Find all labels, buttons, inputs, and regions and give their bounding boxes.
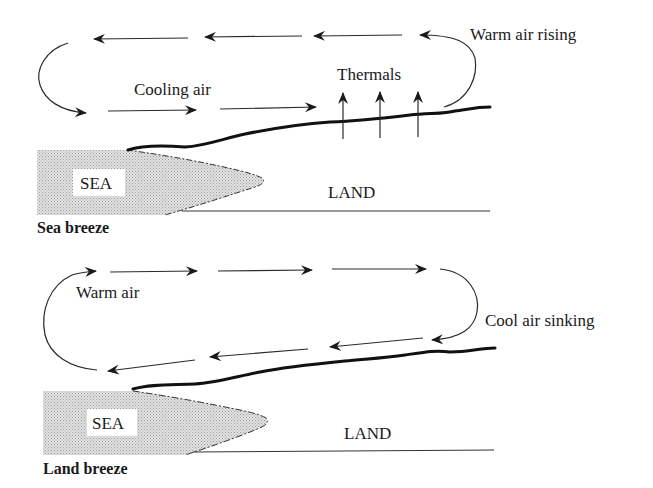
arrow-left-icon bbox=[205, 36, 302, 37]
lower-airflow-arrows bbox=[108, 107, 316, 111]
upper-airflow-arrows bbox=[94, 35, 402, 39]
upper-airflow-arrows bbox=[110, 269, 426, 272]
arrow-right-icon bbox=[218, 270, 312, 271]
coastline bbox=[133, 348, 495, 389]
land-label: LAND bbox=[344, 424, 391, 443]
land-ground-line bbox=[193, 450, 494, 452]
sea-label: SEA bbox=[80, 174, 113, 193]
arrow-right-icon bbox=[220, 107, 316, 109]
sea-area: SEA bbox=[37, 150, 264, 215]
cooling-air-label: Cooling air bbox=[134, 80, 211, 99]
sea-area: SEA bbox=[43, 391, 267, 455]
sea-label: SEA bbox=[92, 414, 125, 433]
arrow-left-icon bbox=[330, 338, 423, 347]
warm-air-label: Warm air bbox=[76, 283, 140, 302]
land-breeze-diagram: SEA LAND Warm air Cool air sinking Land … bbox=[43, 269, 595, 477]
arrow-left-icon bbox=[94, 38, 188, 39]
arrow-right-icon bbox=[108, 110, 196, 111]
sea-breeze-caption: Sea breeze bbox=[37, 219, 109, 236]
cool-air-sinking-label: Cool air sinking bbox=[485, 311, 595, 330]
arrow-right-icon bbox=[110, 271, 197, 272]
breeze-diagram: SEA LAND Warm air rising Cooling air bbox=[0, 0, 653, 488]
arrow-left-icon bbox=[108, 360, 195, 371]
lower-airflow-arrows bbox=[108, 338, 423, 371]
rising-curve-arrow-icon bbox=[420, 35, 476, 107]
coastline bbox=[128, 107, 490, 150]
warm-air-rising-label: Warm air rising bbox=[470, 25, 577, 44]
arrow-left-icon bbox=[210, 349, 308, 357]
sinking-curve-arrow-icon bbox=[432, 269, 478, 340]
land-breeze-caption: Land breeze bbox=[43, 460, 128, 477]
sea-breeze-diagram: SEA LAND Warm air rising Cooling air bbox=[37, 25, 577, 236]
descending-curve-arrow-icon bbox=[39, 43, 86, 113]
arrow-left-icon bbox=[314, 35, 402, 36]
land-label: LAND bbox=[328, 183, 375, 202]
thermals-label: Thermals bbox=[337, 65, 401, 84]
